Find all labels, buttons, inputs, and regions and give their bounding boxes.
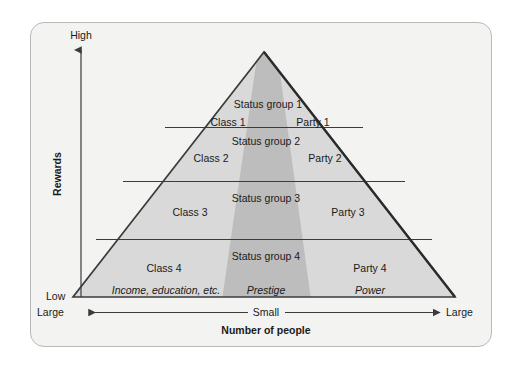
dimension-income-label: Income, education, etc. [112,285,221,296]
dimension-prestige-label: Prestige [247,285,286,296]
class-4-label: Class 4 [146,263,181,274]
status-group-1-label: Status group 1 [234,99,302,110]
party-4-label: Party 4 [353,263,386,274]
party-1-label: Party 1 [296,117,329,128]
rewards-axis-title: Rewards [52,152,63,196]
people-left-label: Large [37,307,64,318]
party-2-label: Party 2 [308,153,341,164]
dimension-power-label: Power [355,285,385,296]
people-axis-title: Number of people [221,325,310,336]
status-group-4-label: Status group 4 [232,251,300,262]
class-2-label: Class 2 [193,153,228,164]
class-1-label: Class 1 [210,117,245,128]
status-group-3-label: Status group 3 [232,193,300,204]
people-center-label: Small [253,307,279,318]
status-group-2-label: Status group 2 [232,136,300,147]
rewards-high-label: High [70,30,92,41]
people-right-label: Large [446,307,473,318]
rewards-low-label: Low [46,291,65,302]
party-3-label: Party 3 [331,207,364,218]
class-3-label: Class 3 [172,207,207,218]
